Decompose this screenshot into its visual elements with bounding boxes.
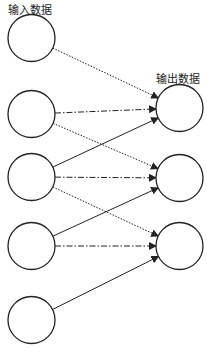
input-node-2: [8, 91, 55, 138]
connection-solid-4-to-2: [53, 188, 158, 236]
connection-dashdot-3-to-2: [55, 177, 156, 178]
connection-solid-3-to-1: [53, 118, 158, 167]
connection-dashdot-2-to-1: [55, 109, 156, 113]
convolution-connection-diagram: [0, 0, 207, 352]
output-node-3: [156, 223, 203, 270]
output-node-2: [156, 155, 203, 202]
output-node-1: [156, 85, 203, 132]
input-node-4: [8, 223, 55, 270]
connection-solid-5-to-3: [53, 257, 159, 310]
input-node-5: [8, 297, 55, 344]
input-node-3: [8, 154, 55, 201]
input-node-1: [8, 15, 55, 62]
connection-dotted-1-to-1: [53, 48, 159, 98]
connection-dotted-2-to-2: [53, 123, 158, 168]
